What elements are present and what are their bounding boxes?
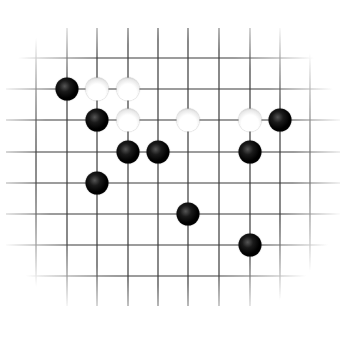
black-stone bbox=[239, 141, 262, 164]
white-stone bbox=[117, 109, 140, 132]
black-stone bbox=[56, 78, 79, 101]
white-stone bbox=[177, 109, 200, 132]
board-grid bbox=[0, 0, 353, 338]
black-stone bbox=[177, 203, 200, 226]
white-stone bbox=[117, 78, 140, 101]
go-board[interactable] bbox=[0, 0, 353, 338]
black-stone bbox=[86, 172, 109, 195]
white-stone bbox=[86, 78, 109, 101]
black-stone bbox=[269, 109, 292, 132]
white-stone bbox=[239, 109, 262, 132]
black-stone bbox=[239, 234, 262, 257]
black-stone bbox=[117, 141, 140, 164]
black-stone bbox=[147, 141, 170, 164]
black-stone bbox=[86, 109, 109, 132]
